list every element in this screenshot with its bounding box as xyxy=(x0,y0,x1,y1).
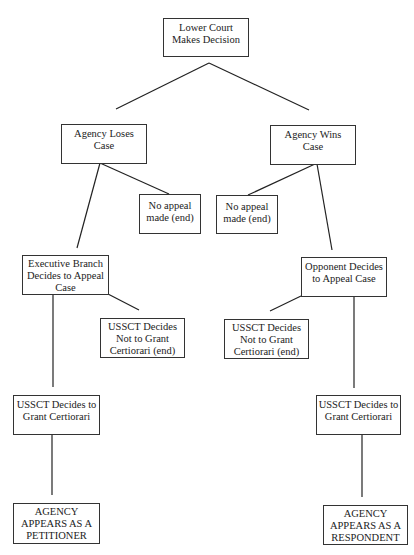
node-ussct-grant-cert-right: USSCT Decides to Grant Certiorari xyxy=(316,395,401,435)
node-agency-respondent: AGENCY APPEARS AS A RESPONDENT xyxy=(323,505,408,545)
edge-opponent-appeal-to-deny-cert-right xyxy=(270,296,301,311)
edge-root-to-agency-wins xyxy=(209,63,309,110)
node-no-appeal-right: No appeal made (end) xyxy=(216,195,278,234)
node-ussct-deny-cert-left: USSCT Decides Not to Grant Certiorari (e… xyxy=(100,318,185,358)
node-opponent-appeal: Opponent Decides to Appeal Case xyxy=(301,257,387,297)
node-agency-loses-case: Agency Loses Case xyxy=(61,124,147,164)
edge-agency-loses-to-no-appeal-left xyxy=(100,163,169,194)
edge-exec-appeal-to-deny-cert-left xyxy=(108,294,139,310)
node-lower-court-decision: Lower Court Makes Decision xyxy=(163,18,249,57)
node-agency-petitioner: AGENCY APPEARS AS A PETITIONER xyxy=(13,503,100,544)
node-ussct-grant-cert-left: USSCT Decides to Grant Certiorari xyxy=(13,395,100,435)
node-ussct-deny-cert-right: USSCT Decides Not to Grant Certiorari (e… xyxy=(224,319,309,359)
node-executive-branch-appeal: Executive Branch Decides to Appeal Case xyxy=(22,255,109,295)
decision-tree-diagram: Lower Court Makes Decision Agency Loses … xyxy=(0,0,414,555)
edge-agency-wins-to-no-appeal-right xyxy=(248,164,315,195)
edge-root-to-agency-loses xyxy=(116,63,209,109)
node-agency-wins-case: Agency Wins Case xyxy=(270,125,356,165)
edge-agency-loses-to-exec-appeal xyxy=(77,163,100,248)
node-no-appeal-left: No appeal made (end) xyxy=(139,194,201,234)
edge-agency-wins-to-opponent-appeal xyxy=(317,164,332,250)
